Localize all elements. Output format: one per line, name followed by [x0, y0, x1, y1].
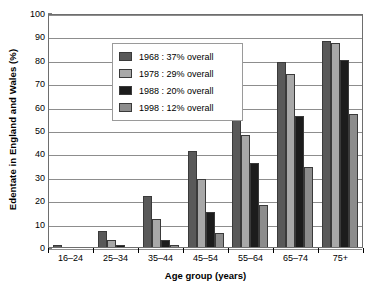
legend-item[interactable]: 1978 : 29% overall [119, 65, 237, 82]
plot-area: 1968 : 37% overall1978 : 29% overall1988… [48, 14, 363, 248]
bar[interactable] [241, 135, 250, 247]
bar[interactable] [250, 163, 259, 247]
x-tick-mark [363, 248, 364, 253]
y-tick-label: 30 [35, 173, 45, 183]
x-tick-label: 75+ [318, 253, 363, 269]
bar[interactable] [152, 219, 161, 247]
y-tick-label: 90 [35, 32, 45, 42]
legend-swatch-icon [119, 86, 132, 95]
legend-label: 1988 : 20% overall [139, 86, 214, 96]
bar[interactable] [188, 151, 197, 247]
y-tick-label: 20 [35, 196, 45, 206]
bar[interactable] [215, 233, 224, 247]
bar[interactable] [295, 116, 304, 247]
y-tick-label: 10 [35, 220, 45, 230]
legend-item[interactable]: 1968 : 37% overall [119, 48, 237, 65]
x-axis-tick-labels: 16–2425–3435–4445–5455–6465–7475+ [48, 253, 363, 269]
bar-group [49, 15, 94, 247]
legend-swatch-icon [119, 69, 132, 78]
y-axis-title-text: Edentate in England and Wales (%) [8, 48, 19, 209]
y-tick-label: 70 [35, 79, 45, 89]
y-axis-title: Edentate in England and Wales (%) [0, 0, 26, 258]
legend-item[interactable]: 1998 : 12% overall [119, 99, 237, 116]
x-tick-label: 55–64 [228, 253, 273, 269]
y-tick-label: 50 [35, 126, 45, 136]
legend: 1968 : 37% overall1978 : 29% overall1988… [112, 43, 243, 121]
y-axis-tick-labels: 1009080706050403020100 [24, 14, 48, 248]
bar[interactable] [53, 245, 62, 247]
legend-swatch-icon [119, 52, 132, 61]
bar[interactable] [286, 74, 295, 247]
x-axis-title: Age group (years) [48, 270, 363, 281]
x-tick-label: 25–34 [93, 253, 138, 269]
bar[interactable] [143, 196, 152, 247]
legend-label: 1968 : 37% overall [139, 52, 214, 62]
x-tick-label: 65–74 [273, 253, 318, 269]
y-tick-label: 0 [40, 243, 45, 253]
bar[interactable] [197, 179, 206, 247]
bar[interactable] [170, 245, 179, 247]
bar[interactable] [116, 245, 125, 247]
bar[interactable] [206, 212, 215, 247]
bar[interactable] [161, 240, 170, 247]
bar[interactable] [331, 43, 340, 247]
legend-item[interactable]: 1988 : 20% overall [119, 82, 237, 99]
x-axis-title-text: Age group (years) [165, 270, 246, 281]
y-tick-label: 40 [35, 149, 45, 159]
bar[interactable] [277, 62, 286, 247]
bar-group [317, 15, 362, 247]
x-tick-label: 16–24 [48, 253, 93, 269]
bar-chart: Edentate in England and Wales (%) 100908… [0, 0, 372, 290]
bar-group [273, 15, 318, 247]
bar[interactable] [107, 240, 116, 247]
bar[interactable] [98, 231, 107, 247]
bar[interactable] [322, 41, 331, 247]
legend-label: 1978 : 29% overall [139, 69, 214, 79]
bar[interactable] [259, 205, 268, 247]
legend-swatch-icon [119, 103, 132, 112]
bar[interactable] [340, 60, 349, 247]
y-tick-label: 60 [35, 103, 45, 113]
x-tick-label: 35–44 [138, 253, 183, 269]
bar[interactable] [304, 167, 313, 247]
y-tick-label: 80 [35, 56, 45, 66]
y-tick-label: 100 [30, 9, 45, 19]
bar[interactable] [349, 114, 358, 247]
x-tick-label: 45–54 [183, 253, 228, 269]
legend-label: 1998 : 12% overall [139, 103, 214, 113]
